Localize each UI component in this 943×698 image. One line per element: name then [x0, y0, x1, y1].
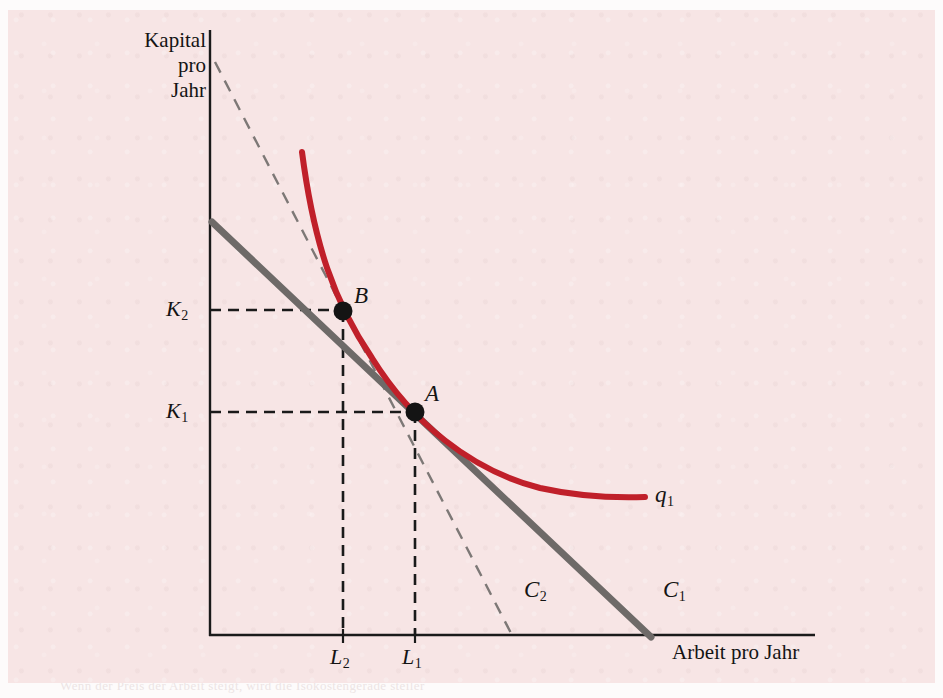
y-tick-k2-base: K: [166, 296, 181, 321]
x-tick-l2-base: L: [330, 644, 342, 669]
isocost-c1-label-sub: 1: [679, 589, 686, 604]
y-tick-label-k1: K1: [166, 398, 188, 426]
y-tick-label-k2: K2: [166, 296, 188, 324]
x-tick-label-l1: L1: [402, 644, 422, 672]
isoquant-label-base: q: [655, 482, 667, 507]
y-axis-label-line-2: pro: [126, 53, 206, 78]
y-axis-label-line-3: Jahr: [126, 78, 206, 103]
point-a-label: A: [425, 381, 439, 407]
y-axis-label: Kapital pro Jahr: [126, 28, 206, 103]
point-a-marker: [406, 403, 425, 422]
point-b-marker: [334, 302, 353, 321]
x-tick-l2-sub: 2: [343, 656, 350, 671]
isoquant-curve-q1: [302, 152, 645, 497]
x-axis-label: Arbeit pro Jahr: [672, 640, 799, 665]
isoquant-isocost-plot: [0, 0, 943, 698]
isocost-c2-label-sub: 2: [540, 589, 547, 604]
point-b-label: B: [354, 283, 368, 309]
y-tick-k1-base: K: [166, 398, 181, 423]
isocost-c2-label-base: C: [524, 577, 539, 602]
isocost-label-c1: C1: [663, 577, 686, 605]
figure-page: Kapital pro Jahr Arbeit pro Jahr Abbildu…: [0, 0, 943, 698]
y-tick-k2-sub: 2: [181, 308, 188, 323]
isocost-c1-label-base: C: [663, 577, 678, 602]
x-tick-label-l2: L2: [330, 644, 350, 672]
isoquant-label-q1: q1: [655, 482, 674, 510]
x-tick-l1-base: L: [402, 644, 414, 669]
x-tick-l1-sub: 1: [415, 656, 422, 671]
isocost-label-c2: C2: [524, 577, 547, 605]
y-axis-label-line-1: Kapital: [126, 28, 206, 53]
y-tick-k1-sub: 1: [181, 410, 188, 425]
isoquant-label-sub: 1: [667, 494, 674, 509]
